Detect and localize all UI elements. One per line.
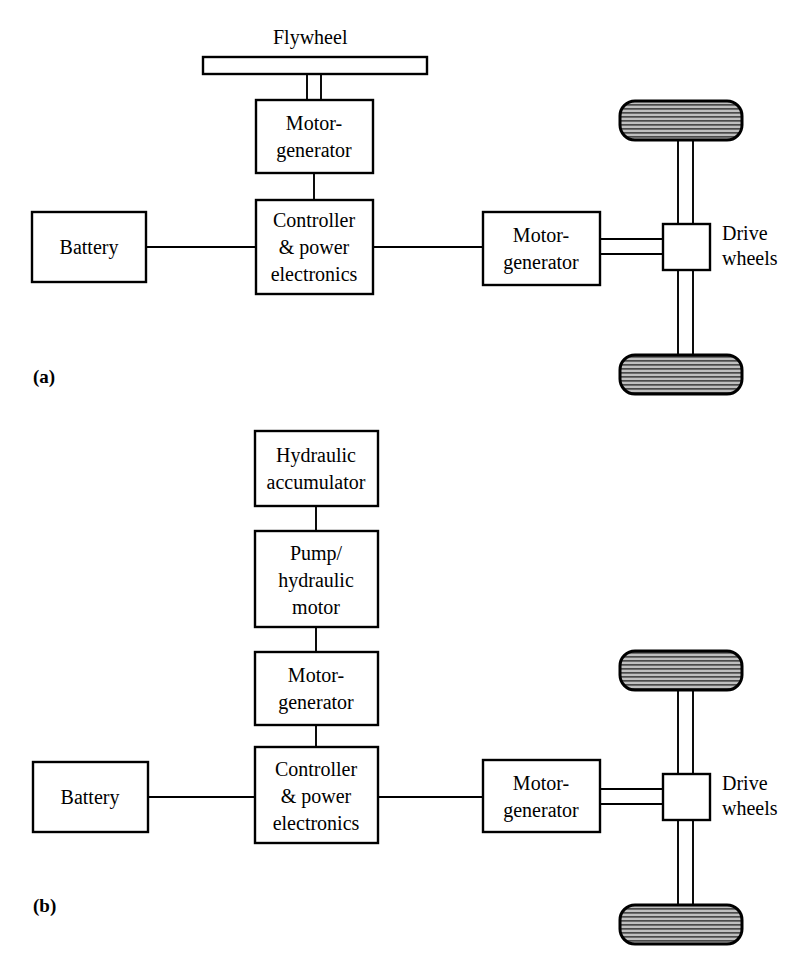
battery-label-a: Battery bbox=[60, 236, 119, 259]
controller-line1-b: Controller bbox=[275, 758, 358, 780]
controller-line3-b: electronics bbox=[273, 812, 360, 834]
drive-wheels-line2-b: wheels bbox=[722, 797, 778, 819]
tire-bottom-a bbox=[620, 355, 742, 394]
flywheel-label: Flywheel bbox=[273, 26, 348, 49]
caption-a: (a) bbox=[33, 366, 55, 388]
motor-generator-top-box bbox=[256, 100, 373, 173]
battery-label-b: Battery bbox=[61, 786, 120, 809]
controller-line3-a: electronics bbox=[271, 263, 358, 285]
motor-generator-right-box-a bbox=[483, 212, 600, 285]
motor-generator-stack-box bbox=[255, 652, 378, 725]
differential-box-a bbox=[663, 224, 710, 270]
hydraulic-accumulator-line1: Hydraulic bbox=[276, 444, 356, 467]
hydraulic-accumulator-box bbox=[255, 431, 378, 506]
caption-b: (b) bbox=[33, 895, 56, 917]
hydraulic-accumulator-line2: accumulator bbox=[267, 471, 366, 493]
motor-generator-right-box-b bbox=[483, 760, 600, 832]
motor-generator-right-line2-a: generator bbox=[503, 251, 579, 274]
controller-line2-a: & power bbox=[279, 236, 350, 259]
figure-canvas: Flywheel Motor- generator Controller & p… bbox=[0, 0, 810, 963]
motor-generator-stack-line1: Motor- bbox=[288, 664, 344, 686]
pump-line3: motor bbox=[292, 596, 340, 618]
motor-generator-top-line1: Motor- bbox=[286, 112, 342, 134]
drive-wheels-line1-b: Drive bbox=[722, 772, 768, 794]
motor-generator-right-line1-a: Motor- bbox=[513, 224, 569, 246]
motor-generator-stack-line2: generator bbox=[278, 691, 354, 714]
powertrain-diagram: Flywheel Motor- generator Controller & p… bbox=[0, 0, 810, 963]
tire-top-b bbox=[620, 651, 742, 690]
drive-wheels-line1-a: Drive bbox=[722, 222, 768, 244]
motor-generator-right-line1-b: Motor- bbox=[513, 772, 569, 794]
pump-line1: Pump/ bbox=[290, 542, 343, 565]
motor-generator-right-line2-b: generator bbox=[503, 799, 579, 822]
tire-top-a bbox=[620, 101, 742, 140]
differential-box-b bbox=[663, 774, 710, 820]
pump-line2: hydraulic bbox=[278, 569, 354, 592]
flywheel-bar bbox=[203, 57, 427, 74]
controller-line2-b: & power bbox=[281, 785, 352, 808]
motor-generator-top-line2: generator bbox=[276, 139, 352, 162]
controller-line1-a: Controller bbox=[273, 209, 356, 231]
drive-wheels-line2-a: wheels bbox=[722, 247, 778, 269]
tire-bottom-b bbox=[620, 905, 742, 944]
